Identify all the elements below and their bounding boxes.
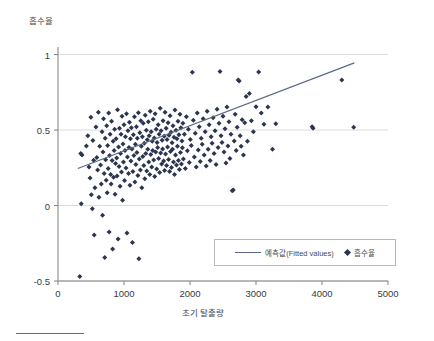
legend-line-icon xyxy=(235,252,261,253)
legend-item-fitted: 예측값(Fitted values) xyxy=(235,247,334,258)
legend-item-observed: 흡수율 xyxy=(345,247,375,258)
chart-legend: 예측값(Fitted values) 흡수율 xyxy=(214,239,396,266)
legend-label-observed: 흡수율 xyxy=(354,247,375,258)
y-axis-title: 흡수율 xyxy=(29,14,53,26)
x-tick-label: 5000 xyxy=(363,288,413,299)
x-tick-label: 1000 xyxy=(99,288,149,299)
fitted-line xyxy=(78,63,355,169)
x-tick-label: 3000 xyxy=(231,288,281,299)
x-axis-title-text: 초기 탈출량 xyxy=(182,308,224,318)
x-tick-label: 0 xyxy=(33,288,83,299)
y-tick-label: -0.5 xyxy=(10,276,50,287)
scatter-chart-figure: 흡수율 -0.500.51 010002000300040005000 초기 탈… xyxy=(0,0,434,341)
y-tick-label: 0 xyxy=(10,200,50,211)
bottom-rule xyxy=(16,333,84,334)
x-axis-title: 초기 탈출량 xyxy=(0,306,434,318)
y-tick-label: 0.5 xyxy=(10,125,50,136)
y-tick-label: 1 xyxy=(10,49,50,60)
legend-label-fitted: 예측값(Fitted values) xyxy=(265,247,334,258)
x-tick-label: 4000 xyxy=(297,288,347,299)
legend-diamond-icon xyxy=(344,249,351,256)
x-tick-label: 2000 xyxy=(165,288,215,299)
